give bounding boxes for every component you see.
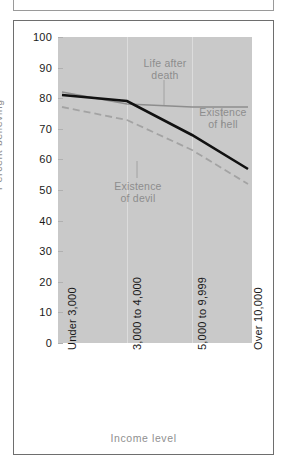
xtick-label-1: 3,000 to 4,000 (131, 277, 143, 350)
annotation-life-after-death: Life after death (129, 57, 201, 81)
annotation-existence-of-devil: Existence of devil (101, 180, 175, 204)
annotation-existence-of-hell: Existence of hell (186, 106, 260, 130)
series-line-life-after-death (62, 92, 248, 107)
xtick-label-3: Over 10,000 (252, 287, 264, 350)
xtick-label-0: Under 3,000 (66, 287, 78, 350)
chart-page: 100 90 80 70 60 50 40 30 20 10 0 Percent… (0, 0, 287, 466)
x-axis-title: Income level (0, 432, 287, 444)
xtick-label-2: 5,000 to 9,999 (196, 277, 208, 350)
